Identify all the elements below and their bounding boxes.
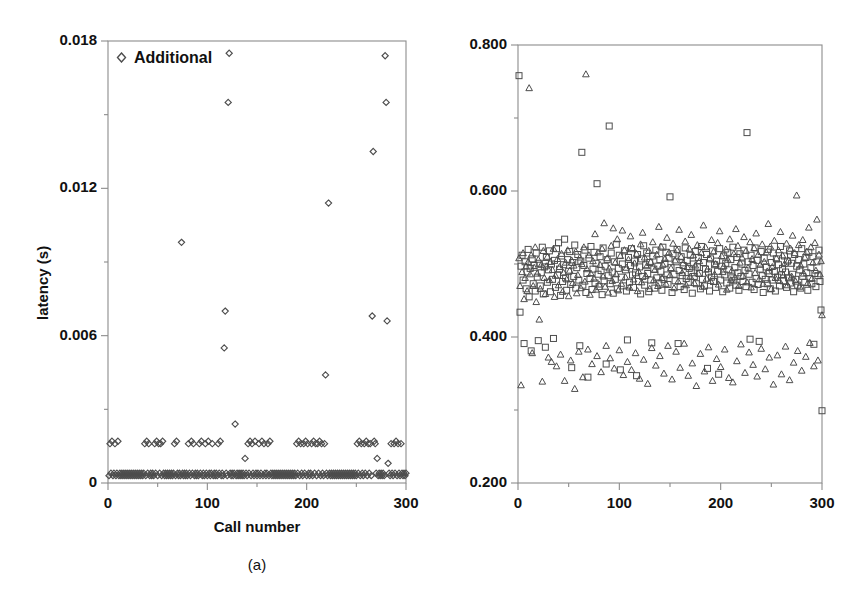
diamond-icon bbox=[116, 49, 127, 67]
panel-a-series-diamond bbox=[106, 50, 409, 479]
panel-b-y-tick-label: 0.800 bbox=[469, 35, 507, 52]
panel-b-plot bbox=[430, 0, 862, 604]
panel-b-y-tick-label: 0.400 bbox=[469, 327, 507, 344]
panel-b-y-tick-label: 0.200 bbox=[469, 473, 507, 490]
panel-a-x-tick-label: 0 bbox=[78, 494, 138, 511]
panel-a-plot bbox=[0, 0, 432, 604]
panel-a-y-axis-title: latency (s) bbox=[34, 246, 51, 320]
panel-b-x-tick-label: 300 bbox=[792, 494, 852, 511]
panel-a-y-tick-label: 0.018 bbox=[59, 31, 97, 48]
panel-a-x-tick-label: 300 bbox=[376, 494, 436, 511]
panel-a-y-tick-label: 0.012 bbox=[59, 178, 97, 195]
panel-b-series-triangle bbox=[516, 71, 826, 392]
figure-two-panel-scatter: Additional latency (s) Call number (a) 0… bbox=[0, 0, 862, 604]
panel-b-x-tick-label: 0 bbox=[488, 494, 548, 511]
panel-b-y-tick-label: 0.600 bbox=[469, 181, 507, 198]
panel-a-legend-label: Additional bbox=[134, 49, 212, 67]
panel-a-y-tick-label: 0 bbox=[89, 473, 97, 490]
panel-a-x-axis-title: Call number bbox=[107, 518, 407, 535]
panel-b-series-square bbox=[516, 73, 825, 414]
panel-b-x-tick-label: 100 bbox=[589, 494, 649, 511]
panel-a-legend: Additional bbox=[116, 49, 212, 67]
panel-a-x-tick-label: 100 bbox=[177, 494, 237, 511]
panel-a-x-tick-label: 200 bbox=[277, 494, 337, 511]
panel-b-x-tick-label: 200 bbox=[691, 494, 751, 511]
panel-a: Additional latency (s) Call number (a) 0… bbox=[0, 0, 432, 604]
panel-b: With CACA latency (s) Call number (b) 0.… bbox=[430, 0, 862, 604]
panel-a-caption: (a) bbox=[197, 556, 317, 573]
panel-a-y-tick-label: 0.006 bbox=[59, 326, 97, 343]
